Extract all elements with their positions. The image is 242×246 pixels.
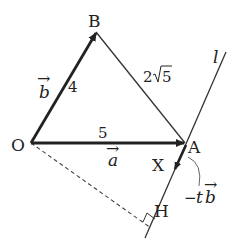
vector-neg-tb-label: − t → b: [184, 175, 217, 207]
neg-tb-letter: b: [205, 187, 216, 207]
neg-tb-minus: −: [184, 189, 197, 207]
neg-tb-pointer-curve: [188, 157, 200, 186]
point-h-label: H: [154, 201, 169, 221]
neg-tb-t: t: [196, 187, 203, 207]
vector-b-letter: b: [39, 82, 50, 102]
length-ab-coefficient: 2: [143, 68, 153, 86]
vector-neg-tb-arrow: [175, 145, 186, 169]
vector-a-label: → a: [106, 139, 119, 170]
line-l-label: l: [213, 47, 218, 67]
vector-a-letter: a: [108, 150, 118, 170]
length-ob-label: 4: [68, 78, 78, 96]
length-ab-label: 2 5: [143, 66, 172, 86]
vector-b-label: → b: [37, 69, 50, 102]
segment-oh-dashed: [31, 143, 151, 228]
point-b-label: B: [88, 11, 101, 31]
vector-diagram: B O A X H l 4 5 2 5 → b → a − t → b: [0, 0, 242, 246]
segment-ab: [96, 32, 185, 143]
point-o-label: O: [11, 135, 25, 155]
length-ab-radicand: 5: [162, 68, 172, 86]
point-x-label: X: [152, 155, 165, 175]
point-a-label: A: [187, 137, 201, 157]
